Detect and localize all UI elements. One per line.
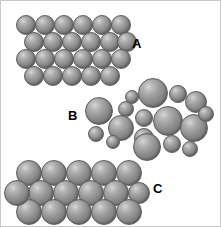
sphere <box>111 15 131 35</box>
sphere <box>198 106 214 122</box>
sphere <box>91 160 117 186</box>
sphere <box>28 180 54 206</box>
sphere <box>91 199 117 225</box>
sphere <box>185 91 207 113</box>
sphere <box>35 49 55 69</box>
sphere <box>16 160 42 186</box>
sphere <box>85 97 113 125</box>
sphere <box>66 160 92 186</box>
sphere <box>78 180 104 206</box>
sphere <box>81 66 101 86</box>
sphere <box>116 160 142 186</box>
sphere <box>43 66 63 86</box>
sphere <box>180 114 208 142</box>
sphere <box>66 199 92 225</box>
sphere <box>62 32 82 52</box>
sphere <box>81 32 101 52</box>
sphere <box>73 15 93 35</box>
sphere <box>41 199 67 225</box>
cluster-label-c: C <box>153 182 162 195</box>
sphere <box>128 182 150 204</box>
sphere <box>125 90 139 104</box>
sphere <box>135 109 153 127</box>
sphere <box>108 115 134 141</box>
sphere <box>41 160 67 186</box>
sphere <box>62 66 82 86</box>
sphere <box>4 180 30 206</box>
sphere <box>100 66 120 86</box>
sphere <box>103 180 129 206</box>
sphere <box>92 49 112 69</box>
sphere-packing-figure: A B C <box>0 0 221 227</box>
sphere <box>35 15 55 35</box>
sphere <box>53 180 79 206</box>
sphere <box>54 15 74 35</box>
sphere <box>100 32 120 52</box>
cluster-b-disordered-mixed-spheres <box>1 1 220 226</box>
sphere <box>133 133 161 161</box>
sphere <box>16 199 42 225</box>
cluster-label-b: B <box>68 109 77 122</box>
sphere <box>153 106 183 136</box>
sphere <box>163 135 181 153</box>
sphere <box>182 141 198 157</box>
sphere <box>24 32 44 52</box>
sphere <box>92 15 112 35</box>
sphere <box>134 128 154 148</box>
sphere <box>169 85 187 103</box>
sphere <box>73 49 93 69</box>
sphere <box>138 78 168 108</box>
sphere <box>111 49 131 69</box>
sphere <box>43 32 63 52</box>
sphere <box>16 15 36 35</box>
sphere <box>24 66 44 86</box>
cluster-c-ordered-large-spheres <box>1 1 220 226</box>
sphere <box>54 49 74 69</box>
sphere <box>16 49 36 69</box>
sphere <box>88 126 104 142</box>
sphere <box>118 101 134 117</box>
cluster-a-ordered-small-spheres <box>1 1 220 226</box>
cluster-label-a: A <box>132 37 141 50</box>
sphere <box>116 199 142 225</box>
sphere <box>106 135 120 149</box>
